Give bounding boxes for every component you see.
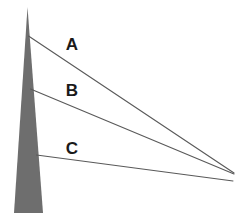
ray-b-label: B [66, 81, 78, 100]
ray-c-label: C [66, 139, 78, 158]
diagram-canvas: A B C [0, 0, 246, 224]
ray-a-label: A [66, 35, 78, 54]
angular-size-diagram: A B C [0, 0, 246, 224]
